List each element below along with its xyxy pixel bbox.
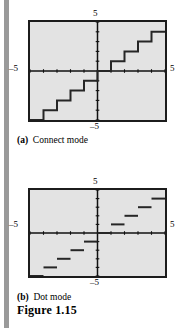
panel-b-x-min-label: –5: [9, 219, 18, 229]
panel-b-caption: (b) Dot mode: [17, 291, 71, 303]
panel-b-tag: (b): [17, 292, 29, 302]
panel-a-y-min-label: –5: [90, 121, 99, 131]
figure-title: Figure 1.15: [17, 303, 77, 317]
panel-b-x-max-label: 5: [170, 219, 175, 229]
step-function-plot-dot-mode: [30, 190, 165, 276]
panel-a-caption: (a) Connect mode: [17, 134, 88, 146]
figure-1-15: 5 –5 5 –5 (a) Connect mode 5 –5 5 –5 (b)…: [0, 0, 194, 328]
panel-a-tag: (a): [17, 135, 28, 145]
panel-b-y-max-label: 5: [93, 176, 98, 186]
panel-b-caption-text: Dot mode: [33, 292, 71, 302]
step-function-plot-connect-mode: [30, 22, 165, 120]
panel-a-x-min-label: –5: [9, 63, 18, 73]
calculator-screen-connect-mode: [28, 20, 167, 122]
panel-a-caption-text: Connect mode: [33, 135, 88, 145]
panel-a-x-max-label: 5: [170, 63, 175, 73]
panel-b-y-min-label: –5: [90, 277, 99, 287]
calculator-screen-dot-mode: [28, 188, 167, 278]
panel-a-y-max-label: 5: [93, 8, 98, 18]
